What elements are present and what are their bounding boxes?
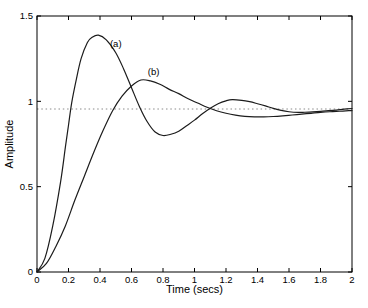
x-tick-label: 0.6	[125, 274, 138, 285]
x-tick-label: 2	[349, 274, 354, 285]
x-tick-label: 1.6	[282, 274, 295, 285]
y-tick-label: 0	[28, 266, 33, 277]
x-tick-label: 1.4	[251, 274, 264, 285]
y-tick-label: 1	[28, 96, 33, 107]
y-tick-label: 0.5	[20, 181, 33, 192]
x-axis-label: Time (secs)	[166, 283, 223, 295]
curve-label-a: (a)	[110, 38, 122, 49]
y-axis-label: Amplitude	[3, 120, 15, 169]
x-tick-label: 0	[34, 274, 39, 285]
y-tick-label: 1.5	[20, 10, 33, 21]
curve-label-b: (b)	[148, 66, 160, 77]
step-response-figure: 00.20.40.60.811.21.41.61.8200.511.5(a)(b…	[0, 0, 368, 308]
x-tick-label: 1.8	[314, 274, 327, 285]
plot-box	[37, 16, 352, 272]
x-tick-label: 0.2	[62, 274, 75, 285]
x-tick-label: 0.4	[93, 274, 106, 285]
curve-a	[37, 35, 352, 272]
step-response-chart: 00.20.40.60.811.21.41.61.8200.511.5(a)(b…	[0, 0, 368, 308]
